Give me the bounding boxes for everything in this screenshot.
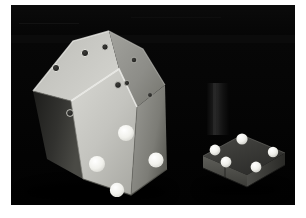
fiducial-dot — [110, 183, 124, 197]
photo-frame — [0, 0, 306, 218]
sphere-marker — [268, 147, 278, 157]
fiducial-hole — [81, 49, 88, 56]
fiducial-hole — [67, 110, 74, 117]
fiducial-dot — [118, 125, 134, 141]
fiducial-hole — [102, 44, 108, 50]
sphere-marker — [251, 162, 262, 173]
fiducial-hole — [52, 64, 59, 71]
small-platform — [197, 123, 289, 195]
fiducial-hole — [131, 57, 137, 63]
fiducial-hole — [124, 80, 129, 85]
sphere-marker — [210, 145, 221, 156]
scan-noise-line — [19, 23, 79, 24]
large-polyhedron — [25, 27, 177, 197]
scan-noise-line — [131, 17, 221, 18]
fiducial-hole — [115, 82, 122, 89]
fiducial-dot — [89, 156, 105, 172]
fiducial-dot — [148, 152, 163, 167]
sphere-marker — [221, 157, 232, 168]
fiducial-hole — [148, 93, 153, 98]
sphere-marker — [236, 133, 247, 144]
photo-canvas — [11, 5, 295, 205]
